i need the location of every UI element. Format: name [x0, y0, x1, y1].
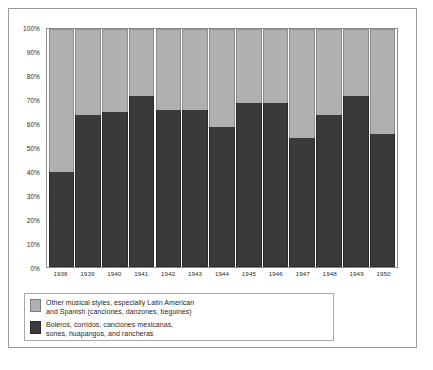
- bar-segment-other-styles[interactable]: [49, 29, 75, 172]
- bar-segment-boleros[interactable]: [263, 103, 289, 267]
- bar-segment-other-styles[interactable]: [102, 29, 128, 112]
- bar-column[interactable]: [182, 29, 208, 267]
- legend-label-other-styles: Other musical styles, especially Latin A…: [46, 298, 194, 316]
- y-axis-tick-label: 60%: [27, 121, 40, 128]
- y-axis: 100%90%80%70%60%50%40%30%20%10%0%: [0, 28, 44, 268]
- bar-segment-other-styles[interactable]: [129, 29, 155, 96]
- bar-segment-other-styles[interactable]: [289, 29, 315, 138]
- x-axis-tick-label: 1940: [101, 270, 127, 284]
- bar-segment-boleros[interactable]: [75, 115, 101, 267]
- chart-legend: Other musical styles, especially Latin A…: [24, 293, 334, 341]
- bar-segment-boleros[interactable]: [370, 134, 396, 267]
- bar-column[interactable]: [370, 29, 396, 267]
- x-axis-tick-label: 1939: [75, 270, 101, 284]
- bar-segment-boleros[interactable]: [182, 110, 208, 267]
- bar-segment-boleros[interactable]: [209, 127, 235, 267]
- y-axis-tick-label: 100%: [23, 25, 40, 32]
- legend-swatch-boleros-icon: [30, 321, 41, 334]
- bar-segment-boleros[interactable]: [102, 112, 128, 267]
- x-axis-tick-label: 1950: [371, 270, 397, 284]
- bar-column[interactable]: [289, 29, 315, 267]
- legend-label-other-styles-line2: and Spanish (canciones, danzones, beguin…: [46, 308, 192, 315]
- bar-column[interactable]: [343, 29, 369, 267]
- bar-column[interactable]: [236, 29, 262, 267]
- bar-segment-other-styles[interactable]: [343, 29, 369, 96]
- x-axis-tick-label: 1942: [155, 270, 181, 284]
- x-axis-tick-label: 1941: [128, 270, 154, 284]
- x-axis-tick-label: 1944: [209, 270, 235, 284]
- y-axis-tick-label: 90%: [27, 49, 40, 56]
- y-axis-tick-label: 80%: [27, 73, 40, 80]
- bar-segment-boleros[interactable]: [129, 96, 155, 267]
- y-axis-tick-label: 30%: [27, 193, 40, 200]
- y-axis-tick-label: 50%: [27, 145, 40, 152]
- bar-segment-boleros[interactable]: [236, 103, 262, 267]
- y-axis-tick-label: 10%: [27, 241, 40, 248]
- y-axis-tick-label: 40%: [27, 169, 40, 176]
- y-axis-tick-label: 70%: [27, 97, 40, 104]
- bar-column[interactable]: [49, 29, 75, 267]
- bar-segment-other-styles[interactable]: [236, 29, 262, 103]
- bar-segment-boleros[interactable]: [156, 110, 182, 267]
- x-axis-tick-label: 1943: [182, 270, 208, 284]
- bar-column[interactable]: [75, 29, 101, 267]
- bar-column[interactable]: [102, 29, 128, 267]
- legend-label-other-styles-line1: Other musical styles, especially Latin A…: [46, 299, 194, 306]
- bar-segment-other-styles[interactable]: [182, 29, 208, 110]
- bar-segment-other-styles[interactable]: [75, 29, 101, 115]
- bar-segment-boleros[interactable]: [343, 96, 369, 267]
- legend-label-boleros-line2: sones, huapangos, and rancheras: [46, 330, 153, 337]
- bar-column[interactable]: [156, 29, 182, 267]
- bar-segment-other-styles[interactable]: [263, 29, 289, 103]
- legend-item-boleros: Boleros, corridos, canciones mexicanas, …: [30, 320, 328, 338]
- x-axis-tick-label: 1948: [317, 270, 343, 284]
- legend-label-boleros-line1: Boleros, corridos, canciones mexicanas,: [46, 321, 173, 328]
- y-axis-tick-label: 20%: [27, 217, 40, 224]
- bar-segment-boleros[interactable]: [289, 138, 315, 267]
- bar-segment-boleros[interactable]: [316, 115, 342, 267]
- legend-swatch-other-styles-icon: [30, 299, 41, 312]
- x-axis-tick-label: 1947: [290, 270, 316, 284]
- bar-series-container: [47, 29, 397, 267]
- figure: 100%90%80%70%60%50%40%30%20%10%0% 193819…: [0, 0, 433, 370]
- bar-segment-other-styles[interactable]: [209, 29, 235, 127]
- legend-label-boleros: Boleros, corridos, canciones mexicanas, …: [46, 320, 173, 338]
- bar-segment-other-styles[interactable]: [370, 29, 396, 134]
- bar-column[interactable]: [129, 29, 155, 267]
- bar-column[interactable]: [316, 29, 342, 267]
- y-axis-tick-label: 0%: [30, 265, 40, 272]
- x-axis: 1938193919401941194219431944194519461947…: [46, 270, 398, 284]
- plot-area: [46, 28, 398, 268]
- x-axis-tick-label: 1938: [48, 270, 74, 284]
- x-axis-tick-label: 1949: [344, 270, 370, 284]
- legend-item-other-styles: Other musical styles, especially Latin A…: [30, 298, 328, 316]
- bar-column[interactable]: [263, 29, 289, 267]
- bar-column[interactable]: [209, 29, 235, 267]
- bar-segment-other-styles[interactable]: [156, 29, 182, 110]
- x-axis-tick-label: 1946: [263, 270, 289, 284]
- bar-segment-other-styles[interactable]: [316, 29, 342, 115]
- x-axis-tick-label: 1945: [236, 270, 262, 284]
- bar-segment-boleros[interactable]: [49, 172, 75, 267]
